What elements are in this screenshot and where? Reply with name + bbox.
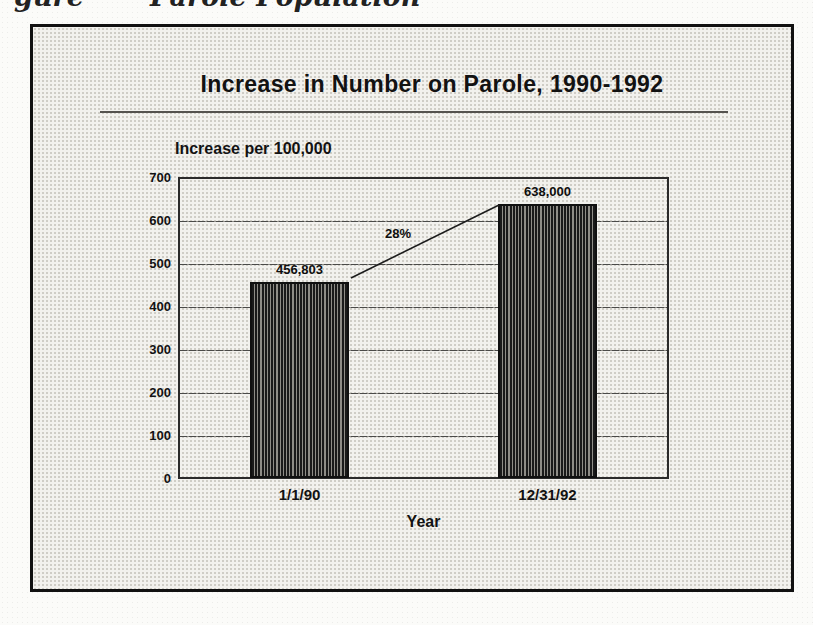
y-tick-600: 600: [93, 213, 171, 228]
y-tick-700: 700: [93, 170, 171, 185]
caption-fragment-right: Parole Population: [150, 0, 420, 12]
x-axis-title: Year: [178, 513, 669, 531]
y-tick-200: 200: [93, 385, 171, 400]
title-underline: [100, 111, 728, 113]
y-tick-500: 500: [93, 256, 171, 271]
scanned-report-page: { "page": { "top_caption_fragments": ["g…: [0, 0, 813, 625]
y-tick-100: 100: [93, 428, 171, 443]
y-tick-0: 0: [93, 471, 171, 486]
x-tick-1990: 1/1/90: [250, 486, 349, 503]
y-tick-400: 400: [93, 299, 171, 314]
bar-1990-value-label: 456,803: [250, 262, 349, 277]
y-tick-300: 300: [93, 342, 171, 357]
bar-1992: [498, 204, 597, 478]
bar-1992-value-label: 638,000: [498, 184, 597, 199]
caption-fragment-left: gure: [14, 0, 84, 12]
bar-1990: [250, 282, 349, 478]
x-tick-1992: 12/31/92: [498, 486, 597, 503]
chart-title: Increase in Number on Parole, 1990-1992: [53, 71, 811, 98]
page-caption-cutoff: gure Parole Population: [0, 0, 600, 13]
percent-increase-annotation: 28%: [385, 226, 411, 241]
y-axis-title: Increase per 100,000: [175, 140, 332, 158]
chart-panel: Increase in Number on Parole, 1990-1992 …: [30, 24, 794, 592]
